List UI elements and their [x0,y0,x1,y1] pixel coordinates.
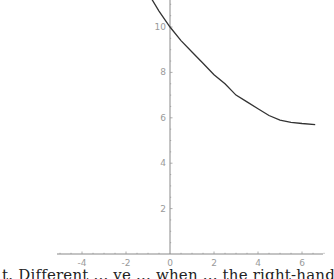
line-chart: -4-20246 246810 [0,0,334,279]
caption-text: t. Different ... ve ... when ... the rig… [2,266,334,279]
y-tick-label: 10 [155,22,167,32]
y-tick-label: 6 [160,113,166,123]
y-tick-label: 8 [160,67,166,77]
y-axis: 246810 [155,0,173,254]
data-curve [148,0,315,125]
y-tick-label: 2 [160,204,166,214]
y-tick-label: 4 [160,158,166,168]
